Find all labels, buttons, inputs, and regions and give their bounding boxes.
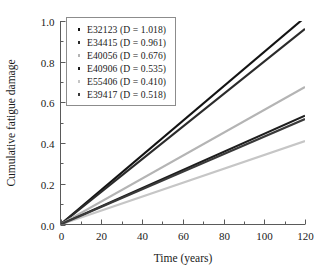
y-tick-group (61, 22, 66, 226)
legend-swatch (78, 41, 81, 44)
x-tick-group (62, 220, 306, 225)
y-axis-title: Cumulative fatigue damage (5, 59, 18, 186)
x-tick-label: 60 (178, 230, 190, 242)
series-line-E40056 (61, 87, 306, 225)
legend-marker-square-icon (71, 54, 87, 57)
y-tick-label: 1.0 (41, 16, 55, 28)
y-tick-label: 0.0 (41, 220, 55, 232)
legend-marker-square-icon (71, 67, 87, 70)
legend-item: E32123 (D = 1.018) (71, 23, 171, 36)
legend-label: E40056 (D = 0.676) (87, 49, 166, 62)
legend-marker-square-icon (71, 41, 87, 44)
legend-item: E34415 (D = 0.961) (71, 36, 171, 49)
legend-item: E40056 (D = 0.676) (71, 49, 171, 62)
legend-swatch (78, 93, 81, 96)
x-tick-label: 40 (137, 230, 149, 242)
legend-marker-square-icon (71, 80, 87, 83)
legend-item: E55406 (D = 0.410) (71, 75, 171, 88)
x-tick-label: 120 (297, 230, 314, 242)
legend-label: E40906 (D = 0.535) (87, 62, 166, 75)
legend-marker-square-icon (71, 28, 87, 31)
legend-swatch (78, 54, 81, 57)
legend-label: E55406 (D = 0.410) (87, 75, 166, 88)
figure-container: 020406080100120 0.00.20.40.60.81.0 Time … (0, 0, 325, 269)
y-tick-label: 0.2 (41, 179, 55, 191)
legend-item: E39417 (D = 0.518) (71, 88, 171, 101)
legend-swatch (78, 28, 81, 31)
x-axis-title: Time (years) (154, 252, 213, 265)
series-line-E39417 (61, 119, 306, 224)
legend-item: E40906 (D = 0.535) (71, 62, 171, 75)
x-tick-label-group: 020406080100120 (59, 230, 315, 242)
y-tick-label: 0.6 (41, 97, 55, 109)
x-tick-label: 20 (96, 230, 108, 242)
series-line-E55406 (61, 141, 306, 224)
x-tick-label: 0 (59, 230, 65, 242)
y-tick-label: 0.4 (41, 138, 55, 150)
legend-swatch (78, 80, 81, 83)
y-tick-label-group: 0.00.20.40.60.81.0 (41, 16, 55, 232)
legend-label: E32123 (D = 1.018) (87, 23, 166, 36)
y-tick-label: 0.8 (41, 57, 55, 69)
chart-legend: E32123 (D = 1.018)E34415 (D = 0.961)E400… (66, 17, 176, 106)
legend-marker-square-icon (71, 93, 87, 96)
x-tick-label: 100 (256, 230, 273, 242)
legend-label: E34415 (D = 0.961) (87, 36, 166, 49)
legend-label: E39417 (D = 0.518) (87, 88, 166, 101)
x-tick-label: 80 (219, 230, 231, 242)
legend-swatch (78, 67, 81, 70)
